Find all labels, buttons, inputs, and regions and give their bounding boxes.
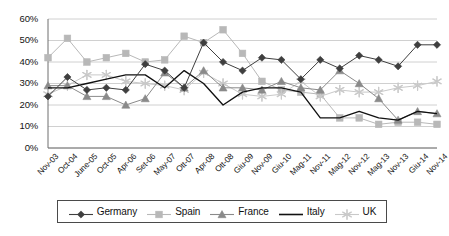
legend-label: France [238,206,269,217]
y-tick-label: 10% [4,120,38,131]
legend-label: Italy [307,206,325,217]
data-point-spain [434,121,441,128]
data-point-spain [84,59,91,66]
chart-legend: GermanySpainFranceItalyUK [57,200,387,223]
data-point-spain [414,119,421,126]
data-point-uk [433,77,441,86]
data-point-spain [161,57,168,64]
legend-label: UK [363,206,377,217]
data-point-germany [83,86,90,93]
data-point-spain [375,121,382,128]
data-point-spain [220,26,227,33]
data-point-legend [156,211,163,218]
data-point-germany [356,52,363,59]
legend-item-france[interactable]: France [209,206,269,217]
legend-key-square-icon [146,206,172,217]
data-point-france [277,77,285,84]
data-point-spain [181,33,188,40]
y-tick-label: 50% [4,34,38,45]
data-point-germany [258,54,265,61]
data-point-germany [103,84,110,91]
data-point-germany [239,67,246,74]
legend-key-triangle-icon [209,206,235,217]
data-point-france [297,84,305,91]
legend-item-uk[interactable]: UK [334,206,377,217]
data-point-spain [123,50,130,57]
data-point-legend [77,211,84,218]
data-point-spain [64,35,71,42]
legend-item-italy[interactable]: Italy [278,206,325,217]
data-point-germany [433,41,440,48]
y-tick-label: 60% [4,13,38,24]
data-point-france [375,95,383,102]
legend-label: Spain [175,206,200,217]
data-point-spain [103,54,110,61]
legend-item-germany[interactable]: Germany [68,206,137,217]
y-tick-label: 20% [4,99,38,110]
legend-key-diamond-icon [68,206,94,217]
legend-item-spain[interactable]: Spain [146,206,200,217]
y-tick-label: 40% [4,56,38,67]
y-tick-label: 0% [4,142,38,153]
data-point-france [141,95,149,102]
y-tick-label: 30% [4,77,38,88]
data-point-spain [259,78,266,85]
data-point-france [200,67,208,74]
data-point-spain [239,50,246,57]
legend-key-asterisk-icon [334,206,360,217]
data-point-spain [45,54,52,61]
data-point-spain [356,115,363,122]
legend-key-none-icon [278,206,304,217]
legend-label: Germany [97,206,137,217]
series-spain [45,26,441,127]
